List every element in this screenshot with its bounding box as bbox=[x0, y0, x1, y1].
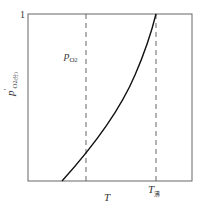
y-axis-p: p bbox=[4, 91, 16, 97]
t-boil-label: T沸 bbox=[148, 184, 160, 197]
y-axis-sub2: 2 bbox=[12, 80, 18, 83]
po2-sub2: 2 bbox=[75, 57, 78, 63]
diagram-canvas bbox=[0, 0, 205, 213]
y-tick-1: 1 bbox=[20, 10, 25, 20]
y-axis-sub: O bbox=[11, 83, 19, 88]
t-boil-sub: 沸 bbox=[154, 191, 160, 197]
y-axis-label: p′O2(分) bbox=[2, 72, 19, 96]
x-axis-label: T bbox=[104, 192, 110, 203]
y-axis-sub3: (分) bbox=[13, 72, 18, 80]
plot-frame bbox=[28, 14, 192, 181]
po2-annotation: pO2 bbox=[64, 50, 78, 64]
vapor-pressure-curve bbox=[62, 14, 156, 181]
